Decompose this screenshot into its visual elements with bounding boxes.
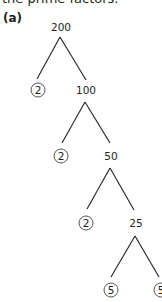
node-2: 2	[83, 217, 90, 229]
node-200: 200	[51, 21, 71, 33]
prime-node: 2	[31, 83, 45, 97]
node-25: 25	[129, 217, 142, 229]
edge	[135, 236, 159, 277]
node-5: 5	[158, 284, 162, 296]
node-2: 2	[58, 150, 65, 162]
edge	[85, 102, 110, 143]
edge	[87, 168, 110, 209]
edge	[110, 168, 134, 210]
node-5: 5	[108, 284, 115, 296]
factor-tree: 200 2 100 2 50 2 25 5 5	[0, 0, 162, 302]
prime-node: 5	[104, 283, 118, 297]
edge	[62, 102, 85, 143]
prime-node: 2	[79, 216, 93, 230]
edge	[37, 37, 60, 79]
edge	[111, 236, 135, 277]
prime-node: 5	[154, 283, 162, 297]
node-100: 100	[76, 84, 96, 96]
node-50: 50	[104, 150, 117, 162]
node-2: 2	[35, 84, 42, 96]
prime-node: 2	[54, 149, 68, 163]
edge	[60, 37, 86, 80]
